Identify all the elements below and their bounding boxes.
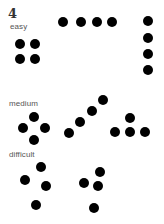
dot bbox=[15, 54, 25, 64]
dot bbox=[98, 95, 108, 105]
dot bbox=[143, 49, 153, 59]
dot bbox=[75, 117, 85, 127]
dot bbox=[29, 135, 39, 145]
dot bbox=[31, 200, 41, 210]
dot bbox=[93, 181, 103, 191]
dot bbox=[125, 127, 135, 137]
dot bbox=[40, 123, 50, 133]
dot bbox=[143, 16, 153, 26]
dot bbox=[29, 112, 39, 122]
dot bbox=[95, 167, 105, 177]
dot bbox=[140, 127, 150, 137]
dot bbox=[125, 113, 135, 123]
dot bbox=[76, 17, 86, 27]
dot bbox=[15, 39, 25, 49]
dot bbox=[30, 39, 40, 49]
dot bbox=[79, 178, 89, 188]
dot bbox=[41, 181, 51, 191]
dot bbox=[110, 127, 120, 137]
dot bbox=[64, 128, 74, 138]
dot bbox=[20, 175, 30, 185]
dot bbox=[58, 17, 68, 27]
dot bbox=[143, 33, 153, 43]
dot bbox=[87, 106, 97, 116]
dot bbox=[107, 17, 117, 27]
dot bbox=[89, 203, 99, 213]
dot bbox=[143, 65, 153, 75]
dot bbox=[92, 17, 102, 27]
dot bbox=[36, 162, 46, 172]
dot bbox=[30, 54, 40, 64]
dot-patterns bbox=[0, 0, 164, 224]
dot bbox=[18, 123, 28, 133]
